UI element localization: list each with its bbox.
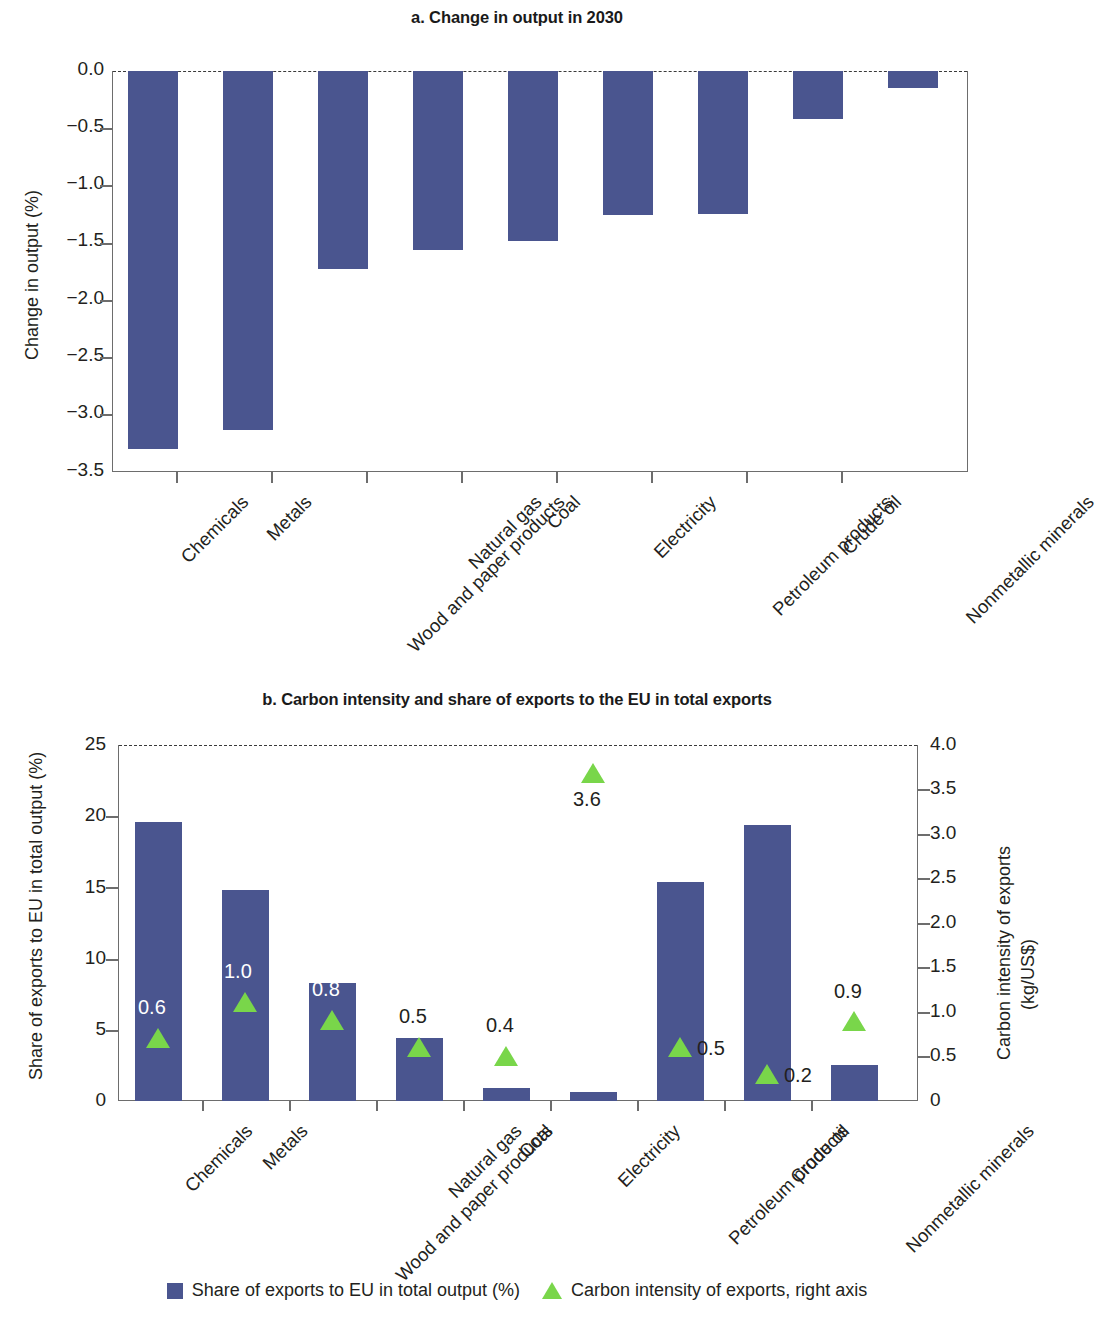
panel-b-marker-natural-gas: [407, 1037, 431, 1057]
panel-b-right-axis-title: Carbon intensity of exports: [994, 846, 1015, 1060]
panel-b-right-ytick-mark: [918, 878, 930, 880]
panel-b-category-nonmetallic-minerals: Nonmetallic minerals: [902, 1120, 1039, 1257]
panel-a-bar-crude-oil: [793, 71, 843, 119]
legend-label-share-of-exports: Share of exports to EU in total output (…: [192, 1280, 520, 1301]
panel-b: b. Carbon intensity and share of exports…: [0, 680, 1034, 1321]
panel-b-bar-crude-oil: [744, 825, 791, 1101]
panel-b-category-metals: Metals: [258, 1120, 312, 1174]
panel-a-bar-electricity: [603, 71, 653, 215]
panel-b-marker-coal: [494, 1046, 518, 1066]
panel-b-value-label-chemicals: 0.6: [138, 996, 166, 1019]
panel-a-xtick-mark: [461, 472, 463, 483]
panel-b-value-label-nonmetallic-minerals: 0.9: [834, 980, 862, 1003]
panel-a-xtick-mark: [651, 472, 653, 483]
panel-b-right-axis-title-units: (kg/US$): [1018, 939, 1039, 1010]
panel-b-bar-electricity: [570, 1092, 617, 1101]
panel-a-ytick-mark: [100, 300, 112, 302]
panel-b-xtick-mark: [289, 1101, 291, 1111]
panel-b-left-ytick-mark: [106, 816, 118, 818]
panel-b-title: b. Carbon intensity and share of exports…: [0, 690, 1034, 709]
panel-b-right-ytick-1.0: 1.0: [930, 1000, 996, 1022]
panel-a-ytick-7: −3.5: [20, 459, 104, 481]
panel-b-right-ytick-mark: [918, 834, 930, 836]
legend-item-share-of-exports: Share of exports to EU in total output (…: [167, 1280, 520, 1301]
panel-a-bar-chemicals: [128, 71, 178, 449]
panel-a-ytick-0: 0.0: [20, 58, 104, 80]
panel-a-bar-coal: [508, 71, 558, 241]
panel-b-right-ytick-4.0: 4.0: [930, 733, 996, 755]
panel-a-ytick-mark: [100, 357, 112, 359]
panel-b-value-label-petroleum-products: 0.5: [697, 1037, 725, 1060]
panel-a-xtick-mark: [556, 472, 558, 483]
panel-b-category-chemicals: Chemicals: [181, 1120, 258, 1197]
panel-b-xtick-mark: [202, 1101, 204, 1111]
panel-a-bar-petroleum-products: [698, 71, 748, 214]
panel-b-xtick-mark: [724, 1101, 726, 1111]
panel-b-marker-electricity: [581, 763, 605, 783]
panel-a-xtick-mark: [746, 472, 748, 483]
panel-b-left-ytick-mark: [106, 959, 118, 961]
panel-b-left-ytick-15: 15: [40, 876, 106, 898]
panel-b-bar-petroleum-products: [657, 882, 704, 1101]
panel-b-marker-crude-oil: [755, 1064, 779, 1084]
panel-a-category-chemicals: Chemicals: [177, 491, 254, 568]
panel-a-bar-metals: [223, 71, 273, 430]
panel-a-ytick-4: −2.0: [20, 287, 104, 309]
panel-b-value-label-wood-paper-products: 0.8: [312, 978, 340, 1001]
panel-a-category-electricity: Electricity: [649, 491, 721, 563]
panel-b-marker-chemicals: [146, 1028, 170, 1048]
panel-b-bar-nonmetallic-minerals: [831, 1065, 878, 1101]
panel-a-category-metals: Metals: [262, 491, 316, 545]
blue-square-icon: [167, 1283, 183, 1299]
panel-b-marker-wood-paper-products: [320, 1010, 344, 1030]
panel-b-category-crude-oil: Crude oil: [786, 1120, 854, 1188]
panel-b-right-ytick-2.5: 2.5: [930, 866, 996, 888]
panel-a-ytick-5: −2.5: [20, 344, 104, 366]
legend-label-carbon-intensity: Carbon intensity of exports, right axis: [571, 1280, 867, 1301]
panel-a-ytick-mark: [100, 128, 112, 130]
panel-a-bar-wood-paper-products: [318, 71, 368, 269]
panel-b-marker-petroleum-products: [668, 1037, 692, 1057]
panel-b-right-ytick-mark: [918, 789, 930, 791]
panel-b-marker-metals: [233, 992, 257, 1012]
panel-b-left-ytick-mark: [106, 1030, 118, 1032]
panel-b-right-ytick-mark: [918, 967, 930, 969]
panel-b-value-label-natural-gas: 0.5: [399, 1005, 427, 1028]
panel-b-left-ytick-0: 0: [40, 1089, 106, 1111]
panel-b-right-ytick-0.5: 0.5: [930, 1044, 996, 1066]
panel-b-right-ytick-mark: [918, 1012, 930, 1014]
panel-a: a. Change in output in 2030 Change in ou…: [0, 0, 1034, 660]
panel-b-right-ytick-3.0: 3.0: [930, 822, 996, 844]
panel-a-ytick-3: −1.5: [20, 229, 104, 251]
panel-b-xtick-mark: [811, 1101, 813, 1111]
panel-a-bar-nonmetallic-minerals: [888, 71, 938, 88]
panel-b-right-ytick-3.5: 3.5: [930, 777, 996, 799]
panel-b-right-ytick-mark: [918, 923, 930, 925]
panel-a-ytick-1: −0.5: [20, 115, 104, 137]
legend-item-carbon-intensity: Carbon intensity of exports, right axis: [542, 1280, 867, 1301]
panel-a-ytick-mark: [100, 243, 112, 245]
panel-b-left-ytick-5: 5: [40, 1018, 106, 1040]
panel-b-legend: Share of exports to EU in total output (…: [0, 1280, 1034, 1301]
panel-a-ytick-6: −3.0: [20, 401, 104, 423]
panel-b-right-ytick-0: 0: [930, 1089, 996, 1111]
panel-b-value-label-crude-oil: 0.2: [784, 1064, 812, 1087]
panel-a-y-axis-title: Change in output (%): [22, 190, 43, 360]
panel-b-left-ytick-10: 10: [40, 947, 106, 969]
panel-a-ytick-2: −1.0: [20, 172, 104, 194]
panel-b-right-ytick-mark: [918, 1056, 930, 1058]
panel-a-bar-natural-gas: [413, 71, 463, 250]
panel-b-left-ytick-25: 25: [40, 733, 106, 755]
panel-b-value-label-electricity: 3.6: [573, 788, 601, 811]
panel-b-bar-coal: [483, 1088, 530, 1101]
panel-b-xtick-mark: [550, 1101, 552, 1111]
panel-b-top-dashed-line: [119, 745, 917, 746]
panel-b-category-electricity: Electricity: [613, 1120, 685, 1192]
panel-a-xtick-mark: [366, 472, 368, 483]
panel-b-value-label-coal: 0.4: [486, 1014, 514, 1037]
panel-b-xtick-mark: [463, 1101, 465, 1111]
panel-b-left-ytick-mark: [106, 887, 118, 889]
panel-a-ytick-mark: [100, 185, 112, 187]
panel-b-right-ytick-1.5: 1.5: [930, 955, 996, 977]
panel-a-xtick-mark: [176, 472, 178, 483]
